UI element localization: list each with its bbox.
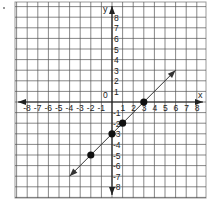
x-tick-label: -6: [44, 103, 52, 113]
y-tick-label: -5: [113, 151, 121, 161]
x-tick-label: -7: [34, 103, 42, 113]
coordinate-plane: xy0-8-7-6-5-4-3-2-11234567887654321-1-2-…: [0, 0, 212, 202]
x-tick-label: -8: [23, 103, 31, 113]
x-tick-label: 1: [121, 103, 126, 113]
y-tick-label: -1: [113, 108, 121, 118]
y-axis-label: y: [103, 4, 108, 14]
y-tick-label: 4: [114, 55, 119, 65]
x-tick-label: -4: [66, 103, 74, 113]
x-tick-label: 6: [174, 103, 179, 113]
y-tick-label: 2: [114, 76, 119, 86]
x-tick-label: 4: [152, 103, 157, 113]
y-tick-label: 6: [114, 34, 119, 44]
y-tick-label: -6: [113, 161, 121, 171]
grid-border: [15, 2, 206, 198]
y-tick-label: -8: [113, 182, 121, 192]
x-tick-label: -3: [76, 103, 84, 113]
coordinate-graph: xy0-8-7-6-5-4-3-2-11234567887654321-1-2-…: [0, 0, 212, 202]
y-tick-label: 1: [114, 87, 119, 97]
origin-label: 0: [103, 90, 108, 100]
plotted-point: [119, 120, 126, 127]
x-tick-label: -5: [55, 103, 63, 113]
y-tick-label: 5: [114, 45, 119, 55]
y-tick-label: 8: [114, 13, 119, 23]
x-tick-label: 7: [184, 103, 189, 113]
stray-mark: [3, 7, 5, 9]
y-tick-label: 3: [114, 66, 119, 76]
plotted-point: [140, 98, 147, 105]
x-tick-label: 8: [195, 103, 200, 113]
y-tick-label: -7: [113, 172, 121, 182]
x-tick-label: -2: [87, 103, 95, 113]
x-tick-label: -1: [97, 103, 105, 113]
plotted-point: [108, 130, 115, 137]
x-axis-label: x: [198, 90, 203, 100]
plotted-point: [87, 151, 94, 158]
y-tick-label: 7: [114, 23, 119, 33]
x-tick-label: 5: [163, 103, 168, 113]
y-tick-label: -4: [113, 140, 121, 150]
